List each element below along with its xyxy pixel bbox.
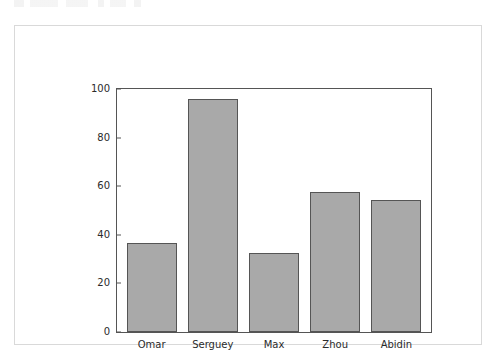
bar-series <box>117 89 431 332</box>
y-axis-tick-label: 40 <box>97 230 117 240</box>
bar-max <box>249 253 299 332</box>
y-axis-tick-label: 20 <box>97 278 117 288</box>
y-axis-tick-label: 0 <box>104 327 117 337</box>
bar-omar <box>127 243 177 332</box>
y-axis-tick-label: 60 <box>97 181 117 191</box>
y-axis-tick-label: 80 <box>97 133 117 143</box>
x-axis-tick-label: Serguey <box>192 332 233 350</box>
x-axis-tick-label: Max <box>264 332 285 350</box>
x-axis-tick-label: Zhou <box>322 332 348 350</box>
y-axis-tick-label: 100 <box>91 84 117 94</box>
bar-chart-plot-area: 020406080100 OmarSergueyMaxZhouAbidin <box>116 88 432 333</box>
bar-serguey <box>188 99 238 332</box>
bar-abidin <box>371 200 421 332</box>
x-axis-tick-label: Abidin <box>381 332 412 350</box>
clipped-text-artifact <box>14 0 144 7</box>
figure-frame: 020406080100 OmarSergueyMaxZhouAbidin <box>14 25 482 345</box>
x-axis-tick-label: Omar <box>138 332 166 350</box>
bar-zhou <box>310 192 360 332</box>
